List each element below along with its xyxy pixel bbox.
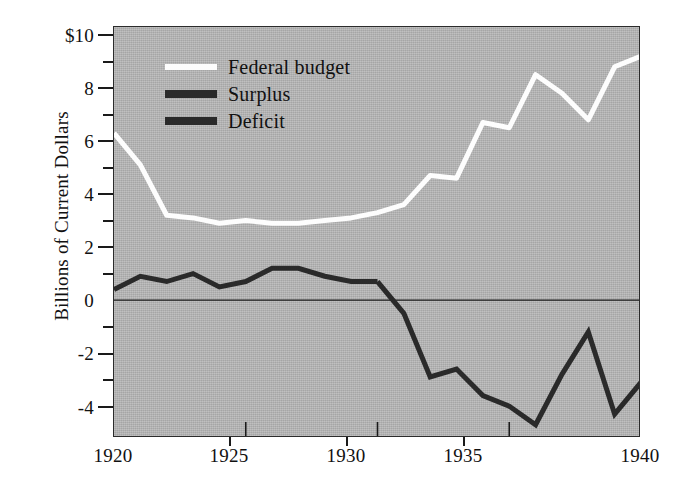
legend-item-deficit: Deficit [165,107,350,134]
y-tick-minor [103,61,113,63]
x-tick-label-1940: 1940 [600,446,673,465]
y-tick-minor [103,167,113,169]
y-tick-minor [103,220,113,222]
legend-swatch-surplus [165,90,217,98]
y-tick-major [98,353,113,355]
plot-area: Federal budget Surplus Deficit [113,26,640,437]
y-tick-major [98,406,113,408]
y-tick-label-4: 4 [24,185,94,204]
legend-swatch-federal-budget [165,64,217,70]
y-tick-major [98,140,113,142]
y-tick-major [98,34,113,36]
legend-item-surplus: Surplus [165,80,350,107]
y-tick-label-neg4: -4 [24,398,94,417]
y-tick-major [98,87,113,89]
y-tick-label-neg2: -2 [24,344,94,363]
y-tick-minor [103,114,113,116]
y-tick-label-10: $10 [24,26,94,45]
x-inner-ticks [246,422,510,437]
x-tick-label-1920: 1920 [73,446,153,465]
y-tick-label-0: 0 [24,291,94,310]
y-axis-title: Billions of Current Dollars [51,76,73,356]
x-tick-label-1935: 1935 [423,446,503,465]
y-tick-minor [103,379,113,381]
legend-label-surplus: Surplus [228,84,291,104]
y-tick-minor [103,273,113,275]
y-tick-major [98,193,113,195]
chart-figure: Billions of Current Dollars $10 8 6 4 2 … [0,0,673,494]
series-line-surplus [114,268,378,289]
chart-legend: Federal budget Surplus Deficit [165,53,350,134]
series-line-deficit [378,282,641,425]
y-tick-major [98,246,113,248]
y-tick-minor [103,326,113,328]
y-tick-label-8: 8 [24,79,94,98]
legend-label-federal-budget: Federal budget [228,57,350,77]
legend-label-deficit: Deficit [228,111,285,131]
x-tick-label-1925: 1925 [189,446,269,465]
y-tick-label-6: 6 [24,132,94,151]
x-tick-label-1930: 1930 [306,446,386,465]
y-tick-label-2: 2 [24,238,94,257]
legend-item-federal-budget: Federal budget [165,53,350,80]
legend-swatch-deficit [165,117,217,125]
